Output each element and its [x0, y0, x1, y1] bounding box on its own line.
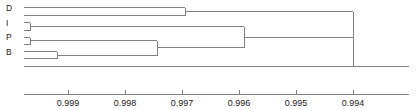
axis-tick-label-0.999: 0.999	[57, 98, 80, 108]
tip-label-p: P	[6, 32, 12, 42]
tip-label-d: D	[6, 3, 12, 13]
axis-tick-label-0.994: 0.994	[342, 98, 365, 108]
axis-tick-label-0.997: 0.997	[171, 98, 194, 108]
tree-lines-group	[24, 8, 409, 67]
tip-label-group: DIPB	[6, 3, 12, 57]
dendrogram-figure: DIPB 0.9990.9980.9970.9960.9950.994	[0, 0, 416, 109]
axis-area: 0.9990.9980.9970.9960.9950.994	[0, 80, 416, 109]
tip-label-b: B	[6, 47, 12, 57]
tip-label-i: I	[6, 18, 8, 28]
dendrogram-plot-area: DIPB	[0, 0, 416, 80]
axis-tick-label-0.995: 0.995	[285, 98, 308, 108]
axis-ticks-group	[69, 90, 354, 95]
dendrogram-tree: DIPB	[0, 0, 416, 80]
axis-tick-labels-group: 0.9990.9980.9970.9960.9950.994	[57, 98, 365, 108]
axis-tick-label-0.996: 0.996	[228, 98, 251, 108]
similarity-axis: 0.9990.9980.9970.9960.9950.994	[0, 80, 416, 109]
axis-tick-label-0.998: 0.998	[114, 98, 137, 108]
